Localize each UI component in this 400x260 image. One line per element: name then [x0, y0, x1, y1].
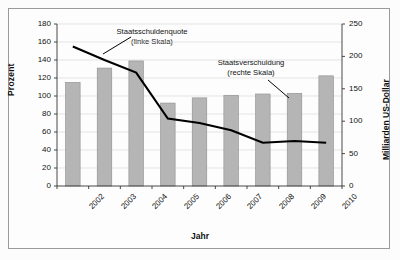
bar — [66, 82, 81, 186]
chart-canvas — [0, 0, 400, 260]
chart-root: Prozent Milliarden US-Dollar Jahr 020406… — [0, 0, 400, 260]
bar — [192, 98, 207, 186]
bar — [319, 76, 334, 186]
bar — [161, 103, 176, 186]
bar — [287, 93, 302, 186]
annotation-leader-line — [103, 37, 131, 54]
bar — [224, 95, 239, 186]
annotation-leader-line — [268, 80, 289, 98]
bar — [97, 68, 112, 186]
